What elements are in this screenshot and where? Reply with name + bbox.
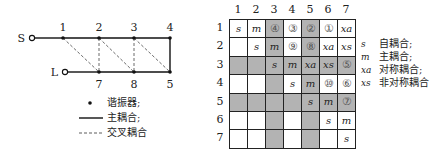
matrix-cell: ⑨: [284, 38, 302, 56]
source-label: S: [17, 32, 25, 45]
matrix-row-header: 7: [211, 132, 229, 144]
legend-label: 对称耦合;: [379, 64, 422, 75]
matrix-cell: ②: [302, 20, 320, 38]
matrix-cell: xa: [302, 56, 320, 74]
matrix-cell: [320, 130, 338, 148]
matrix-cell: ①: [320, 20, 338, 38]
matrix-row: sm: [230, 111, 356, 129]
coupling-topology-diagram: SL1234785: [0, 0, 200, 157]
matrix-cell: xa: [320, 38, 338, 56]
matrix-cell: [248, 93, 266, 111]
topology-legend: [79, 101, 103, 133]
resonator-label: 4: [167, 21, 174, 34]
resonator-label: 5: [167, 78, 174, 91]
resonator-node: [97, 36, 101, 40]
matrix-cell: [248, 56, 266, 74]
matrix-cell: m: [248, 20, 266, 38]
coupling-matrix-table: sm④③②①xasm⑨⑧xaxssmxaxs⑤sm⑩⑥sm⑦sms: [229, 19, 356, 149]
matrix-row-header: 4: [211, 77, 229, 89]
matrix-cell: [248, 75, 266, 93]
resonator-legend-dot: [88, 101, 92, 105]
matrix-cell: m: [338, 111, 356, 129]
legend-symbol: m: [361, 51, 379, 63]
legend-resonator-label: 谐振器;: [107, 97, 140, 109]
matrix-col-header: 3: [265, 4, 283, 16]
source-port: [29, 35, 34, 40]
load-port: [62, 69, 67, 74]
matrix-cell: [284, 130, 302, 148]
matrix-cell: [230, 75, 248, 93]
resonator-label: 3: [131, 21, 138, 34]
matrix-legend-item: xs非对称耦合: [361, 77, 429, 89]
matrix-cell: ⑥: [338, 75, 356, 93]
cross-coupling-1-7: [63, 38, 99, 72]
matrix-col-header: 6: [319, 4, 337, 16]
load-label: L: [51, 66, 59, 79]
matrix-cell: [230, 38, 248, 56]
matrix-row: s: [230, 130, 356, 148]
matrix-cell: [248, 130, 266, 148]
matrix-col-header: 4: [283, 4, 301, 16]
matrix-cell: m: [266, 38, 284, 56]
resonator-node: [97, 70, 101, 74]
matrix-row: sm⑨⑧xaxs: [230, 38, 356, 56]
matrix-cell: s: [284, 75, 302, 93]
matrix-cell: m: [284, 56, 302, 74]
matrix-cell: [302, 130, 320, 148]
matrix-row: sm⑩⑥: [230, 75, 356, 93]
matrix-legend-item: m主耦合;: [361, 51, 412, 63]
matrix-row-header: 6: [211, 114, 229, 126]
matrix-cell: s: [248, 38, 266, 56]
legend-label: 自耦合;: [379, 38, 412, 49]
matrix-col-header: 5: [301, 4, 319, 16]
matrix-legend-item: xa对称耦合;: [361, 64, 422, 76]
matrix-col-header: 2: [247, 4, 265, 16]
matrix-cell: s: [338, 130, 356, 148]
legend-symbol: xa: [361, 64, 379, 76]
matrix-col-header: 1: [229, 4, 247, 16]
resonator-label: 7: [96, 78, 103, 91]
matrix-row: smxaxs⑤: [230, 56, 356, 74]
matrix-col-header: 7: [337, 4, 355, 16]
resonator-node: [168, 70, 172, 74]
legend-label: 主耦合;: [379, 51, 412, 62]
matrix-row: sm④③②①xa: [230, 20, 356, 38]
matrix-row: sm⑦: [230, 93, 356, 111]
matrix-row-header: 1: [211, 22, 229, 34]
legend-symbol: s: [361, 38, 379, 50]
matrix-cell: [266, 130, 284, 148]
resonator-label: 2: [96, 21, 103, 34]
resonator-node: [61, 36, 65, 40]
matrix-cell: ④: [266, 20, 284, 38]
legend-cross-coupling-label: 交叉耦合: [107, 127, 147, 139]
resonator-label: 1: [60, 21, 67, 34]
matrix-cell: ⑤: [338, 56, 356, 74]
legend-main-coupling-label: 主耦合;: [107, 112, 140, 124]
resonator-node: [132, 36, 136, 40]
matrix-cell: [284, 111, 302, 129]
matrix-cell: s: [302, 93, 320, 111]
matrix-cell: s: [230, 20, 248, 38]
matrix-legend-item: s自耦合;: [361, 38, 412, 50]
resonator-node: [132, 70, 136, 74]
cross-coupling-2-8: [99, 38, 134, 72]
cross-coupling-3-5: [134, 38, 170, 72]
matrix-cell: [230, 111, 248, 129]
matrix-cell: m: [320, 93, 338, 111]
matrix-cell: s: [320, 111, 338, 129]
matrix-cell: [230, 56, 248, 74]
matrix-cell: xs: [338, 38, 356, 56]
matrix-cell: [266, 93, 284, 111]
matrix-cell: [266, 111, 284, 129]
resonator-node: [168, 36, 172, 40]
matrix-cell: ⑧: [302, 38, 320, 56]
matrix-cell: xa: [338, 20, 356, 38]
legend-label: 非对称耦合: [379, 77, 429, 88]
matrix-cell: ③: [284, 20, 302, 38]
matrix-row-header: 3: [211, 59, 229, 71]
matrix-cell: [248, 111, 266, 129]
matrix-cell: ⑦: [338, 93, 356, 111]
resonator-label: 8: [131, 78, 138, 91]
matrix-cell: [230, 93, 248, 111]
matrix-cell: [302, 111, 320, 129]
